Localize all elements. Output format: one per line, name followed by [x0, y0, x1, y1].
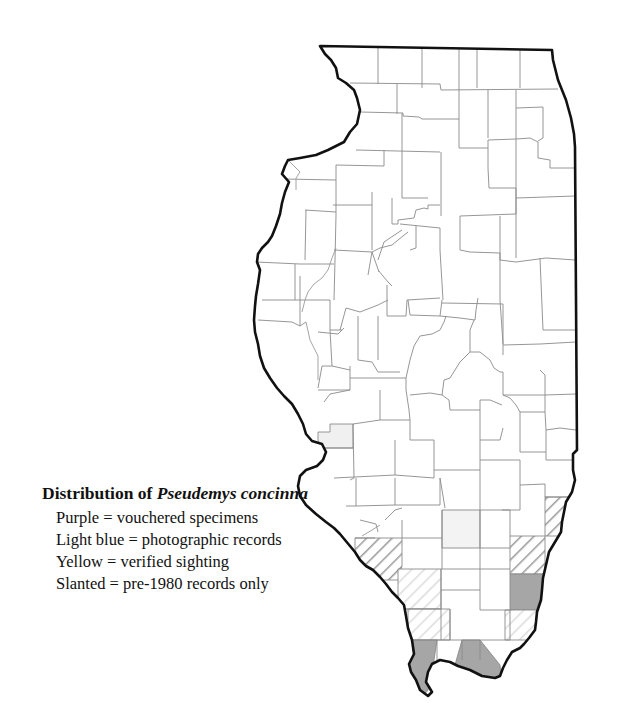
legend-item-pre1980: Slanted = pre-1980 records only — [56, 573, 308, 595]
illinois-distribution-map — [0, 0, 626, 713]
legend-item-vouchered: Purple = vouchered specimens — [56, 507, 308, 529]
legend-item-verified: Yellow = verified sighting — [56, 551, 308, 573]
county-pre1980-se — [510, 536, 545, 574]
county-verified — [442, 510, 480, 548]
legend-species-name: Pseudemys concinna — [157, 483, 308, 503]
county-pre1980-light-south — [398, 569, 441, 609]
legend-title: Distribution of Pseudemys concinna — [42, 483, 308, 504]
county-pre1980-light-farsoutheast — [505, 610, 545, 640]
legend-title-prefix: Distribution of — [42, 483, 157, 503]
map-legend: Distribution of Pseudemys concinna Purpl… — [42, 483, 308, 595]
county-pre1980-light-farsouth — [408, 609, 450, 640]
legend-item-photographic: Light blue = photographic records — [56, 529, 308, 551]
